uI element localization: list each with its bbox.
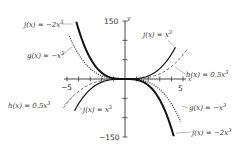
annotation-leader-line: [64, 95, 74, 105]
annotation-j-neg2-top: j(x) = −2x3: [22, 19, 63, 29]
y-axis-label: y: [126, 14, 131, 22]
annotation-h-left: h(x) = 0.5x3: [8, 100, 51, 110]
x-tick-label-5: 5: [178, 84, 183, 93]
annotation-leader-line: [175, 67, 185, 74]
annotation-f-top: j(x) = x3: [141, 29, 172, 39]
annotation-g-bottom: g(x) = −x3: [189, 102, 226, 112]
y-tick-label-neg150: −150: [99, 133, 120, 142]
cubic-functions-chart: y x 150 −150 −5 5 j(x) = −2x3 g(x) = −x3…: [0, 0, 244, 149]
x-tick-label-neg5: −5: [61, 83, 72, 92]
y-tick-label-150: 150: [104, 17, 119, 26]
annotation-leader-line: [168, 40, 176, 49]
annotation-leader-line: [182, 106, 188, 108]
annotation-f-bottom: j(x) = x3: [81, 104, 112, 114]
annotation-g-top: g(x) = −x3: [27, 50, 64, 60]
annotation-leader-line: [176, 132, 191, 133]
annotation-h-right: h(x) = 0.5x3: [186, 69, 229, 79]
annotation-j-neg2-bottom: j(x) = −2x3: [190, 127, 231, 137]
